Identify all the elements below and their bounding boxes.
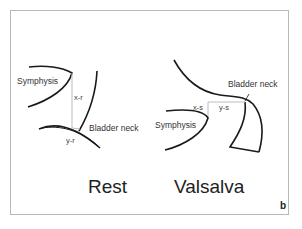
valsalva-bladder-neck-curve [230, 102, 259, 152]
valsalva-title: Valsalva [174, 177, 244, 196]
diagram-canvas [0, 0, 302, 229]
rest-title: Rest [88, 177, 127, 196]
rest-y-guide-line [72, 128, 80, 129]
rest-symphysis-label: Symphysis [17, 77, 58, 86]
rest-x-label: x-r [74, 94, 83, 102]
rest-bladder-neck-label: Bladder neck [89, 124, 139, 133]
valsalva-y-label: y-s [219, 104, 229, 112]
valsalva-symphysis-curve [165, 110, 208, 150]
rest-y-label: y-r [66, 137, 75, 145]
valsalva-bladder-neck-label: Bladder neck [228, 80, 278, 89]
panel-letter: b [280, 201, 286, 211]
rest-symphysis-curve [28, 66, 72, 107]
valsalva-symphysis-label: Symphysis [155, 121, 196, 130]
valsalva-x-label: x-s [193, 104, 203, 112]
